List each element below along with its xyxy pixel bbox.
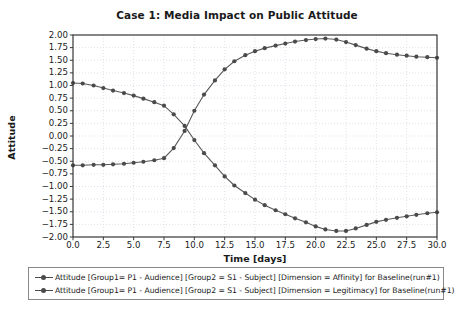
data-point <box>323 227 327 231</box>
chart-legend: Attitude [Group1= P1 - Audience] [Group2… <box>28 267 444 300</box>
data-point <box>192 138 196 142</box>
data-point <box>283 41 287 45</box>
legend-label-legitimacy: Attitude [Group1= P1 - Audience] [Group2… <box>55 286 454 295</box>
chart-figure: Case 1: Media Impact on Public Attitude … <box>0 0 474 312</box>
data-point <box>111 88 115 92</box>
data-point <box>354 43 358 47</box>
data-point <box>213 78 217 82</box>
data-point <box>274 44 278 48</box>
data-point <box>414 213 418 217</box>
legend-label-affinity: Attitude [Group1= P1 - Audience] [Group2… <box>55 273 440 282</box>
data-point <box>395 216 399 220</box>
data-point <box>162 104 166 108</box>
data-point <box>263 203 267 207</box>
data-point <box>101 163 105 167</box>
data-point <box>344 40 348 44</box>
data-point <box>132 94 136 98</box>
legend-item-affinity[interactable]: Attitude [Group1= P1 - Audience] [Group2… <box>33 271 439 284</box>
data-point <box>223 67 227 71</box>
data-point <box>384 51 388 55</box>
data-point <box>183 124 187 128</box>
data-point <box>365 47 369 51</box>
legend-marker-icon <box>33 285 55 297</box>
data-point <box>92 83 96 87</box>
legend-item-legitimacy[interactable]: Attitude [Group1= P1 - Audience] [Group2… <box>33 284 439 297</box>
data-point <box>232 59 236 63</box>
data-point <box>202 92 206 96</box>
data-point <box>81 163 85 167</box>
data-point <box>152 100 156 104</box>
data-point <box>334 37 338 41</box>
data-point <box>152 158 156 162</box>
data-point <box>141 160 145 164</box>
data-point <box>395 53 399 57</box>
data-point <box>323 36 327 40</box>
data-point <box>132 161 136 165</box>
data-point <box>384 218 388 222</box>
data-point <box>334 229 338 233</box>
data-point <box>405 54 409 58</box>
data-point <box>253 198 257 202</box>
data-point <box>243 53 247 57</box>
data-point <box>111 162 115 166</box>
data-point <box>183 129 187 133</box>
data-point <box>293 39 297 43</box>
data-point <box>232 183 236 187</box>
data-point <box>101 86 105 90</box>
data-point <box>223 174 227 178</box>
plot-area <box>0 0 474 312</box>
data-point <box>425 55 429 59</box>
data-point <box>213 163 217 167</box>
data-point <box>344 229 348 233</box>
data-point <box>253 49 257 53</box>
data-point <box>274 208 278 212</box>
data-point <box>293 216 297 220</box>
data-point <box>354 226 358 230</box>
data-point <box>283 212 287 216</box>
data-point <box>304 38 308 42</box>
data-point <box>304 220 308 224</box>
data-point <box>122 91 126 95</box>
data-point <box>314 37 318 41</box>
data-point <box>162 156 166 160</box>
data-point <box>202 151 206 155</box>
data-point <box>81 81 85 85</box>
data-point <box>92 163 96 167</box>
legend-marker-icon <box>33 272 55 284</box>
data-point <box>314 224 318 228</box>
data-point <box>243 191 247 195</box>
data-point <box>365 223 369 227</box>
data-point <box>172 112 176 116</box>
data-point <box>414 55 418 59</box>
data-point <box>192 109 196 113</box>
data-point <box>263 46 267 50</box>
data-point <box>405 214 409 218</box>
data-point <box>141 97 145 101</box>
data-point <box>172 146 176 150</box>
data-point <box>374 220 378 224</box>
data-point <box>122 162 126 166</box>
data-point <box>425 211 429 215</box>
data-point <box>374 49 378 53</box>
